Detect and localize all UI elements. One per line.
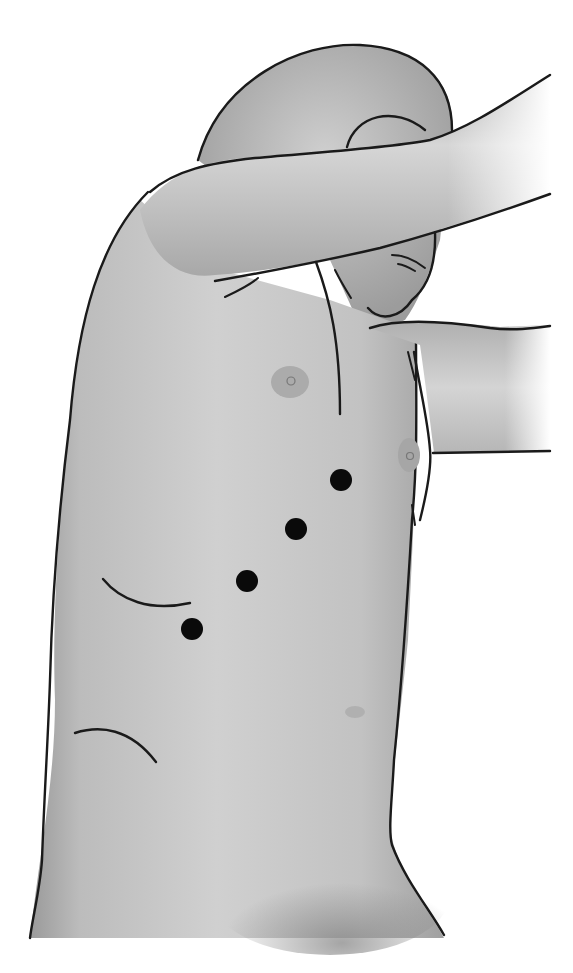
nipple-right: [398, 438, 420, 472]
port-marker-3: [236, 570, 258, 592]
port-marker-1: [330, 469, 352, 491]
torso-illustration: [0, 0, 573, 973]
port-marker-4: [181, 618, 203, 640]
port-marker-2: [285, 518, 307, 540]
nipple-left: [271, 366, 309, 398]
